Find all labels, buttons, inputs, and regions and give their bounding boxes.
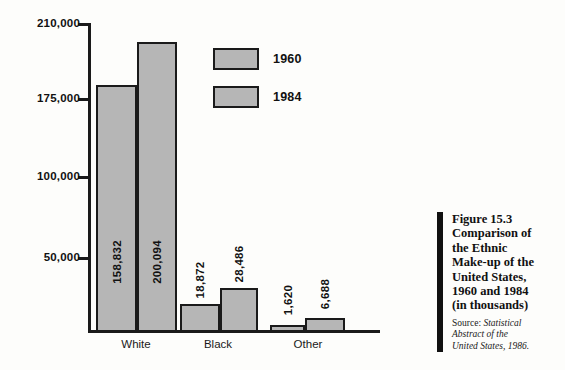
bar-value-label: 28,486 [233, 246, 245, 283]
y-tick-label: 210,000 [37, 17, 80, 29]
y-tick-label: 50,000 [44, 251, 80, 263]
legend-label: 1984 [273, 90, 302, 104]
legend-item-1984[interactable]: 1984 [213, 86, 302, 108]
x-category-label-other: Other [294, 338, 323, 350]
bar-black-1984[interactable]: 28,486 [220, 288, 258, 332]
bar-white-1960[interactable]: 158,832 [96, 85, 137, 332]
caption-line-1: Comparison of [452, 226, 534, 240]
bar-other-1984[interactable]: 6,688 [305, 318, 345, 332]
figure-caption: Figure 15.3 Comparison of the Ethnic Mak… [437, 212, 559, 352]
caption-line-3: Make-up of the [452, 255, 534, 269]
x-category-label-black: Black [204, 338, 232, 350]
y-tick-label: 175,000 [37, 92, 80, 104]
caption-line-5: 1960 and 1984 [452, 284, 534, 298]
legend-swatch-icon [213, 86, 259, 108]
bar-value-label: 6,688 [319, 279, 331, 309]
y-tick-label: 100,000 [37, 170, 80, 182]
caption-source-line-1: Statistical [481, 318, 521, 328]
bar-black-1960[interactable]: 18,872 [180, 304, 220, 332]
chart-legend: 1960 1984 [213, 48, 302, 124]
bar-value-label: 1,620 [282, 285, 294, 315]
caption-source-line-2: Abstract of the [452, 329, 534, 340]
caption-line-2: the Ethnic [452, 241, 534, 255]
caption-line-4: United States, [452, 270, 534, 284]
caption-body: Figure 15.3 Comparison of the Ethnic Mak… [452, 212, 534, 352]
legend-label: 1960 [273, 52, 302, 66]
caption-source-line-3: United States, 1986. [452, 341, 534, 352]
legend-item-1960[interactable]: 1960 [213, 48, 302, 70]
bar-value-label: 158,832 [111, 240, 123, 284]
bar-value-label: 18,872 [194, 262, 206, 299]
caption-rule-bar [437, 212, 443, 352]
caption-source-prefix: Source: [452, 318, 481, 328]
caption-source: Source: Statistical Abstract of the Unit… [452, 318, 534, 352]
figure-15-3: 210,000 175,000 100,000 50,000 158,832 2… [0, 0, 565, 370]
x-category-label-white: White [121, 338, 150, 350]
caption-line-6: (in thousands) [452, 298, 534, 312]
caption-figure-number: Figure 15.3 [452, 212, 534, 226]
bar-white-1984[interactable]: 200,094 [137, 42, 177, 332]
legend-swatch-icon [213, 48, 259, 70]
bar-value-label: 200,094 [151, 240, 163, 284]
bar-other-1960[interactable]: 1,620 [270, 325, 305, 332]
